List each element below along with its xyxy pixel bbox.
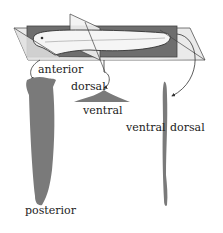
label-ventral-sagittal: ventral: [126, 122, 166, 133]
fish-eye: [41, 37, 44, 40]
label-anterior: anterior: [38, 64, 83, 75]
label-dorsal-sagittal: dorsal: [170, 122, 205, 133]
frontal-section-shape: [26, 77, 56, 205]
label-dorsal-transverse: dorsal: [71, 81, 106, 92]
label-ventral-transverse: ventral: [83, 105, 123, 116]
fish-planes-diagram: anterior dorsal ventral ventral dorsal p…: [0, 0, 223, 233]
label-posterior: posterior: [25, 205, 76, 216]
sagittal-section-shape: [163, 82, 168, 206]
